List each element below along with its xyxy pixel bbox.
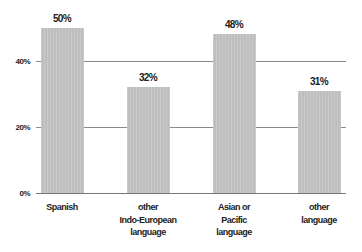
x-label-line: language (108, 226, 188, 239)
x-label-spanish: Spanish (22, 201, 102, 214)
value-label-asian-pacific: 48% (204, 19, 264, 30)
bar-spanish (41, 28, 84, 193)
bar-chart: 40% 20% 0% 50% 32% 48% 31% Spanish other… (0, 0, 362, 252)
value-label-other-indo-european: 32% (118, 72, 178, 83)
bar-asian-pacific (213, 34, 256, 193)
x-label-line: other (279, 201, 359, 214)
x-label-line: language (279, 214, 359, 227)
value-label-spanish: 50% (32, 13, 92, 24)
x-label-other-indo-european: other Indo-European language (108, 201, 188, 239)
bar-other-language (298, 91, 341, 193)
y-tick-label-20: 20% (0, 123, 30, 132)
y-tick-label-40: 40% (0, 57, 30, 66)
x-label-line: other (108, 201, 188, 214)
x-label-line: language (194, 226, 274, 239)
x-label-line: Indo-European (108, 214, 188, 227)
bar-other-indo-european (127, 87, 170, 193)
x-label-line: Pacific (194, 214, 274, 227)
x-label-line: Asian or (194, 201, 274, 214)
x-label-asian-pacific: Asian or Pacific language (194, 201, 274, 239)
baseline-0 (36, 193, 346, 194)
x-label-line: Spanish (22, 201, 102, 214)
x-label-other-language: other language (279, 201, 359, 226)
y-tick-label-0: 0% (0, 189, 30, 198)
value-label-other-language: 31% (289, 76, 349, 87)
